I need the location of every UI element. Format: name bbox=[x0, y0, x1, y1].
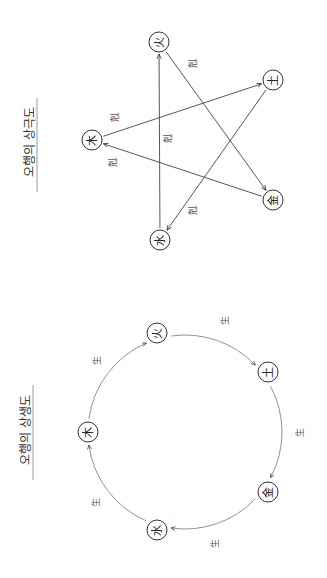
water-glyph: 水 bbox=[151, 525, 164, 536]
sanggeuk-node-metal: 金 bbox=[263, 190, 283, 210]
wood-glyph: 木 bbox=[82, 427, 95, 438]
sanggeuk-edge-label: 剋 bbox=[108, 158, 118, 167]
sanggeuk-title: 오행의 상극도 bbox=[22, 107, 37, 177]
sangsaeng-edge-label: 生 bbox=[219, 316, 230, 325]
sanggeuk-diagram: 오행의 상극도 剋剋剋剋剋 木火土金水 bbox=[22, 32, 284, 250]
sanggeuk-edge-label: 剋 bbox=[188, 59, 198, 68]
sangsaeng-diagram: 오행의 상생도 生生生生生 木火土金水 bbox=[18, 316, 305, 548]
earth-glyph: 土 bbox=[267, 75, 280, 86]
sanggeuk-title-group: 오행의 상극도 bbox=[22, 98, 38, 192]
sanggeuk-edge-label: 剋 bbox=[110, 113, 120, 122]
sangsaeng-edge-water-to-wood bbox=[89, 445, 146, 521]
sanggeuk-node-water: 水 bbox=[150, 230, 170, 250]
sangsaeng-node-earth: 土 bbox=[258, 362, 278, 382]
sangsaeng-edge-earth-to-metal bbox=[270, 386, 282, 478]
sangsaeng-node-water: 水 bbox=[147, 520, 167, 540]
sangsaeng-edge-label: 生 bbox=[209, 539, 220, 548]
sanggeuk-edge-water-to-fire bbox=[159, 54, 160, 228]
sangsaeng-title: 오행의 상생도 bbox=[18, 395, 33, 465]
sangsaeng-edge-label: 生 bbox=[91, 356, 102, 365]
wood-glyph: 木 bbox=[86, 135, 99, 146]
sanggeuk-edge-wood-to-earth bbox=[103, 84, 261, 136]
five-elements-diagram-canvas: 오행의 상극도 剋剋剋剋剋 木火土金水 오행의 상생도 生生生生生 木火土金水 bbox=[0, 0, 327, 578]
sanggeuk-node-wood: 木 bbox=[82, 130, 102, 150]
sanggeuk-edge-label: 剋 bbox=[163, 134, 173, 143]
sangsaeng-edge-fire-to-earth bbox=[171, 335, 255, 365]
sanggeuk-nodes: 木火土金水 bbox=[82, 32, 283, 250]
sangsaeng-edge-wood-to-fire bbox=[89, 343, 146, 419]
sanggeuk-node-fire: 火 bbox=[149, 32, 169, 52]
sanggeuk-edges: 剋剋剋剋剋 bbox=[103, 52, 266, 230]
sangsaeng-edge-metal-to-water bbox=[171, 499, 255, 529]
sanggeuk-edge-earth-to-water bbox=[167, 90, 266, 230]
sangsaeng-edge-label: 生 bbox=[90, 498, 101, 507]
sanggeuk-node-earth: 土 bbox=[263, 70, 283, 90]
metal-glyph: 金 bbox=[261, 487, 275, 498]
fire-glyph: 火 bbox=[151, 328, 164, 339]
sangsaeng-node-fire: 火 bbox=[147, 323, 167, 343]
fire-glyph: 火 bbox=[153, 37, 166, 48]
sangsaeng-node-metal: 金 bbox=[258, 482, 278, 502]
water-glyph: 水 bbox=[154, 235, 167, 246]
sangsaeng-node-wood: 木 bbox=[78, 422, 98, 442]
sangsaeng-edges: 生生生生生 bbox=[89, 316, 305, 548]
sangsaeng-title-group: 오행의 상생도 bbox=[18, 385, 34, 480]
earth-glyph: 土 bbox=[262, 367, 275, 378]
sangsaeng-edge-label: 生 bbox=[294, 428, 305, 437]
sangsaeng-nodes: 木火土金水 bbox=[78, 323, 278, 540]
metal-glyph: 金 bbox=[266, 195, 280, 206]
sanggeuk-edge-label: 剋 bbox=[188, 206, 198, 215]
